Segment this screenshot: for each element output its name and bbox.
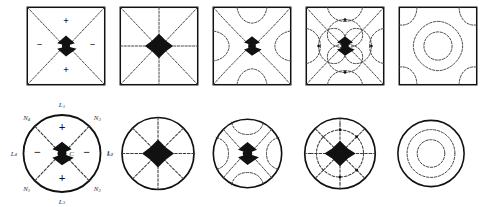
square-panel-1: + + − − — [22, 0, 110, 92]
panel-frame — [399, 7, 476, 84]
sign-plus-top: + — [63, 15, 69, 26]
label-L1: L1 — [106, 149, 113, 157]
label-L1: L1 — [58, 101, 65, 109]
sign-minus-right: − — [83, 146, 90, 159]
label-N3: N3 — [93, 114, 102, 122]
label-N2: N2 — [93, 184, 102, 192]
domain-boundary — [398, 120, 464, 186]
circle-panel-2: L1 — [106, 100, 206, 207]
circular-domain-row: + + − − C L1 L3 L4 L2 — [0, 100, 477, 207]
sign-plus-bottom: + — [63, 64, 69, 75]
center-label-c: C — [69, 150, 74, 158]
circle-panel-5 — [385, 100, 477, 207]
square-panel-4 — [301, 0, 389, 92]
sign-minus-left: − — [34, 146, 41, 159]
sign-minus-right: − — [90, 39, 96, 50]
sign-plus-bottom: + — [59, 172, 66, 185]
label-L3: L3 — [58, 197, 66, 205]
circle-panel-4 — [291, 100, 389, 207]
label-L4: L4 — [10, 149, 18, 157]
square-domain-row: + + − − — [0, 0, 477, 104]
sign-plus-top: + — [59, 121, 66, 134]
circle-panel-3 — [200, 100, 295, 207]
square-panel-3 — [208, 0, 296, 92]
square-panel-5 — [394, 0, 482, 92]
label-N4: N4 — [22, 114, 31, 122]
square-panel-2 — [115, 0, 203, 92]
sign-minus-left: − — [37, 39, 43, 50]
circle-panel-1: + + − − C L1 L3 L4 L2 — [8, 100, 116, 207]
label-N1: N1 — [22, 184, 30, 192]
